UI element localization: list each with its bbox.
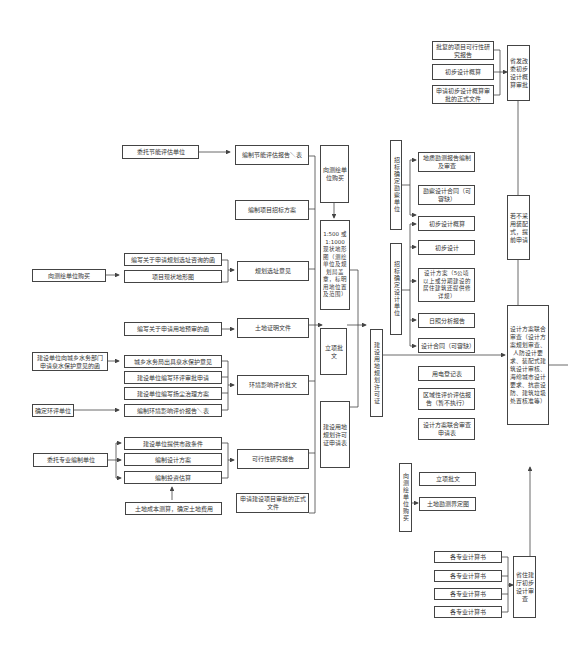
water-opinion-box: 城乡水务局出具泉水保护意见 — [124, 355, 222, 368]
project-approval-bottom-box: 立项批文 — [419, 472, 476, 486]
boundary-map-box: 土地勘测界定图 — [419, 497, 476, 511]
bid-survey-unit-box: 招标确定勘察单位 — [390, 140, 402, 230]
design-contract-box: 设计合同（可容缺） — [418, 338, 475, 353]
provincial-review-box: 省住建厅初步设计审查 — [513, 556, 536, 618]
prelim-estimate-top-box: 初步设计概算 — [432, 64, 494, 80]
land-permit-apply-box: 建设用地规划许可证申请表 — [320, 401, 350, 468]
prelim-estimate-doc-box: 申请初步设计概算审批的正式文件 — [432, 85, 494, 104]
buy-survey-mid-box: 向测绘单位购买 — [320, 145, 349, 203]
buy-survey-bottom-box: 向测绘单位购买 — [399, 463, 412, 532]
entrust-design-box: 委托专业编制单位 — [33, 453, 108, 467]
entrust-energy-box: 委托节能评估单位 — [122, 145, 199, 159]
feasibility-box: 可行性研究报告 — [237, 449, 309, 469]
land-letter-box: 编写关于申请用地预审的函 — [124, 322, 222, 336]
flowchart-canvas: 批复的项目可行性研究报告 初步设计概算 申请初步设计概算审批的正式文件 省发改委… — [0, 0, 571, 648]
bid-plan-box: 编制项目招标方案 — [235, 200, 309, 220]
water-letter-box: 建设单位向城乡水务部门申请泉水保护意见的函 — [32, 352, 108, 371]
project-approval-doc-box: 申请建设项目审批的正式文件 — [236, 493, 309, 513]
joint-review-form-box: 设计方案联合审查申请表 — [418, 418, 475, 440]
no-prefab-box: 若不采用装配式，提前申请 — [507, 195, 530, 260]
joint-review-box: 设计方案联合审查（设计方案规划审查、人防设计要求、装配式建筑设计审核、海绵城市设… — [507, 305, 549, 425]
eia-approval-box: 环境影响评价批文 — [237, 375, 309, 395]
design-plan-box: 设计方案（5公顷以上或分期建设的居住建筑还提供修详规） — [418, 268, 475, 302]
calc-book-4: 各专业计算书 — [434, 606, 502, 618]
land-cost-box: 土地成本测算，确定土地费用 — [125, 502, 222, 515]
prelim-estimate-mid-box: 初步设计概算 — [418, 216, 475, 231]
land-permit-box: 建设用地规划许可证 — [370, 329, 383, 417]
topo-map-box: 1:500 或 1:1000 现状地形图（测绘单位及规划局盖章，标明用地位置及范… — [320, 220, 350, 310]
regional-eval-box: 区域性评价评估报告（暂不执行） — [418, 388, 475, 410]
eia-report-box: 编制环境影响评价报告＼表 — [124, 404, 222, 417]
municipal-box: 建设单位提供市政条件 — [124, 437, 222, 450]
calc-book-1: 各专业计算书 — [434, 551, 502, 563]
calc-book-2: 各专业计算书 — [434, 570, 502, 582]
bid-design-unit-box: 招标确定设计单位 — [390, 243, 402, 335]
feasibility-approval-box: 批复的项目可行性研究报告 — [432, 41, 494, 60]
project-approval-box: 立项批文 — [320, 328, 347, 375]
energy-report-box: 编制节能评估报告＼表 — [235, 145, 309, 165]
geo-report-box: 地质勘测报告编制及审查 — [418, 152, 475, 172]
site-opinion-box: 规划选址意见 — [237, 261, 309, 281]
land-doc-box: 土地证明文件 — [237, 318, 309, 338]
site-map-box: 项目现状地形图 — [124, 270, 222, 283]
ndrc-review-box: 省发改委初步设计概算审批 — [507, 45, 530, 101]
dust-plan-box: 建设单位编写扬尘治理方案 — [124, 387, 222, 400]
investment-est-box: 编制投资估算 — [124, 471, 222, 484]
calc-book-3: 各专业计算书 — [434, 588, 502, 600]
survey-contract-box: 勘察设计合同（可容缺） — [418, 185, 475, 205]
prelim-design-box: 初步设计 — [418, 240, 475, 255]
buy-survey-left-box: 向测绘单位购买 — [32, 269, 106, 282]
site-letter-box: 编写关于申请规划选址咨询的函 — [124, 253, 222, 266]
design-scheme-box: 编制设计方案 — [124, 453, 222, 466]
eia-apply-box: 建设单位编写环评审批申请 — [124, 371, 222, 384]
eia-unit-box: 确定环评单位 — [32, 404, 74, 417]
power-reg-box: 用电登记表 — [418, 366, 475, 381]
sunlight-box: 日照分析报告 — [418, 313, 475, 328]
